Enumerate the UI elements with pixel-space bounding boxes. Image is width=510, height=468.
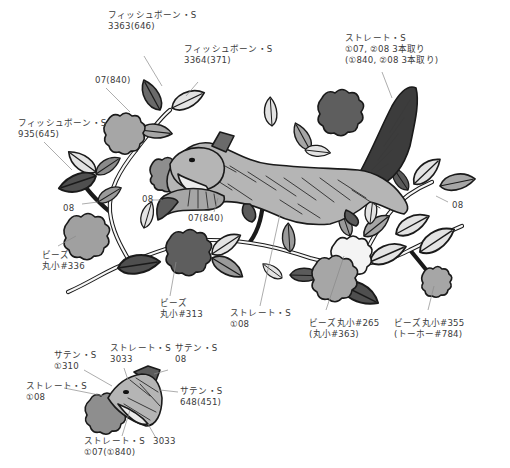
- label-fishbone-3364: フィッシュボーン・S 3364(371): [184, 44, 272, 66]
- label-beads-355: ビーズ丸小#355 (トーホー#784): [394, 318, 464, 340]
- label-fishbone-935: フィッシュボーン・S 935(645): [18, 118, 106, 140]
- flower-355: [422, 267, 452, 298]
- label-detail-straight-07: ストレート・S ①07(①840): [84, 436, 145, 458]
- label-tail-straight: ストレート・S ①07, ②08 3本取り (①840, ②08 3本取り): [345, 33, 438, 66]
- label-detail-straight-3033: ストレート・S 3033: [110, 343, 171, 365]
- label-beads-265: ビーズ丸小#265 (丸小#363): [309, 318, 379, 340]
- flower-363: [312, 256, 358, 302]
- label-hind-08: 08: [452, 200, 463, 211]
- label-stem-08-left: 08: [63, 203, 74, 214]
- label-detail-satin-310: サテン・S ①310: [54, 350, 96, 372]
- label-detail-3033: 3033: [153, 436, 176, 447]
- label-detail-straight-08: ストレート・S ①08: [26, 381, 87, 403]
- label-detail-satin-08: サテン・S 08: [175, 343, 217, 365]
- label-squirrel-07: 07(840): [188, 213, 223, 224]
- label-detail-satin-648: サテン・S 648(451): [180, 386, 222, 408]
- squirrel: [157, 87, 418, 226]
- squirrel-eye: [189, 158, 195, 162]
- label-stem-07: 07(840): [95, 75, 130, 86]
- label-beads-313: ビーズ 丸小#313: [160, 298, 203, 320]
- label-beads-336: ビーズ 丸小#336: [42, 250, 85, 272]
- label-fishbone-3363: フィッシュボーン・S 3363(646): [108, 10, 196, 32]
- label-squirrel-08: 08: [142, 194, 153, 205]
- flower-behind: [318, 90, 364, 136]
- flower-313: [166, 230, 212, 276]
- label-body-straight: ストレート・S ①08: [230, 308, 291, 330]
- flower-top: [104, 113, 145, 154]
